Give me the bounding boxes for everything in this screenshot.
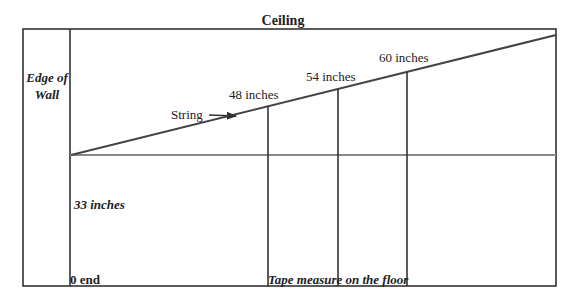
ceiling-label: Ceiling [262,13,305,28]
string-label: String [171,107,203,122]
string-measurement-diagram: Ceiling Edge of Wall 48 inches 54 inches… [0,0,580,301]
measure-label-54: 54 inches [306,69,355,84]
measure-label-60: 60 inches [379,50,428,65]
zero-end-label: 0 end [70,272,101,287]
height-label: 33 inches [73,197,125,212]
wall-label-line1: Edge of [25,70,69,85]
string-line [71,35,556,155]
room-frame [23,29,556,286]
measure-label-48: 48 inches [229,87,278,102]
floor-tape-label: Tape measure on the floor [268,272,409,287]
wall-label-line2: Wall [35,87,60,102]
